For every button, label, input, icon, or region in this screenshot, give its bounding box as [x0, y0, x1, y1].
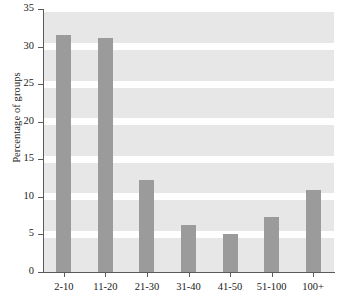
y-tick-mark: [38, 234, 43, 235]
plot-area: [43, 9, 334, 272]
y-tick-label: 20: [0, 115, 34, 126]
x-tick-label: 100+: [283, 281, 343, 292]
x-tick-mark: [147, 272, 148, 277]
x-tick-mark: [272, 272, 273, 277]
y-tick-mark: [38, 122, 43, 123]
y-axis-line: [43, 9, 44, 273]
bar: [264, 217, 279, 272]
y-tick-label: 5: [0, 227, 34, 238]
y-tick-mark: [38, 47, 43, 48]
y-tick-label: 0: [0, 265, 34, 276]
bar: [306, 190, 321, 272]
y-tick-mark: [38, 272, 43, 273]
bar-series: [43, 9, 334, 272]
x-tick-mark: [313, 272, 314, 277]
y-tick-label: 25: [0, 77, 34, 88]
bar: [98, 38, 113, 272]
y-tick-mark: [38, 197, 43, 198]
bar: [139, 180, 154, 272]
bar: [56, 35, 71, 272]
x-tick-mark: [64, 272, 65, 277]
x-tick-mark: [230, 272, 231, 277]
bar: [223, 234, 238, 272]
bar-chart: Percentage of groups 05101520253035 2-10…: [0, 0, 344, 298]
y-tick-label: 35: [0, 2, 34, 13]
bar: [181, 225, 196, 272]
y-tick-label: 30: [0, 40, 34, 51]
y-tick-mark: [38, 159, 43, 160]
y-tick-mark: [38, 9, 43, 10]
x-tick-mark: [189, 272, 190, 277]
y-tick-label: 10: [0, 190, 34, 201]
y-tick-label: 15: [0, 152, 34, 163]
y-tick-mark: [38, 84, 43, 85]
x-tick-mark: [105, 272, 106, 277]
